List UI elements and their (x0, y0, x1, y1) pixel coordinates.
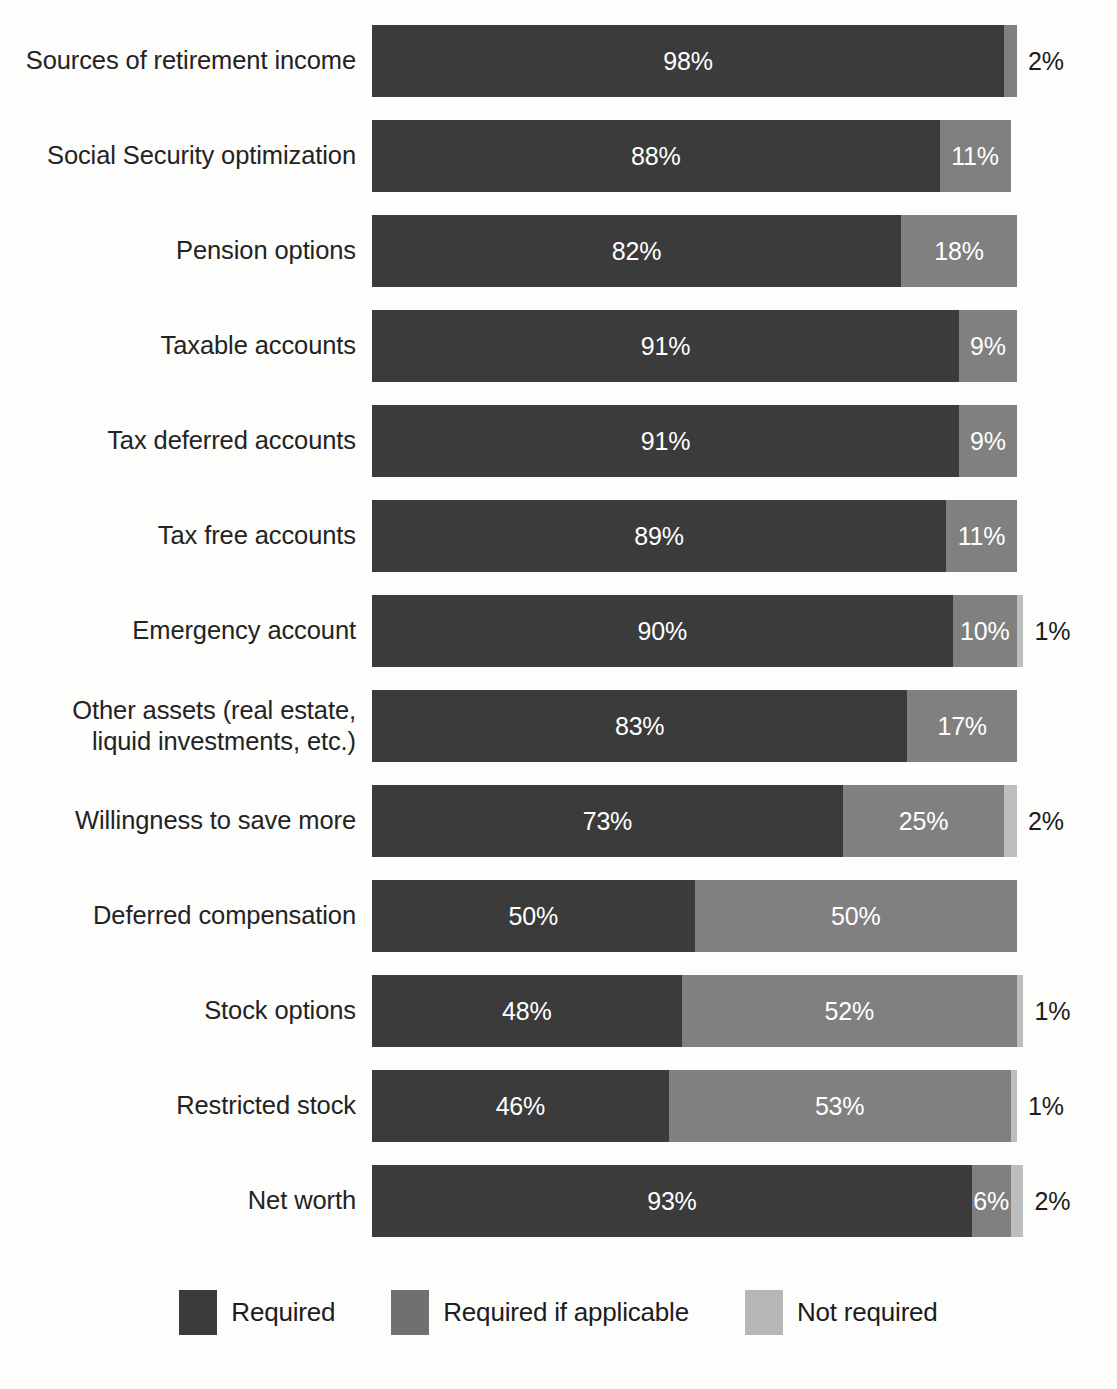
segment-value-label-outside: 2% (1028, 785, 1064, 857)
bar-row: Sources of retirement income98%2% (0, 25, 1117, 97)
segment-value-label-outside: 1% (1034, 975, 1070, 1047)
category-label: Taxable accounts (0, 330, 372, 361)
legend-item[interactable]: Required if applicable (391, 1290, 689, 1335)
category-label: Social Security optimization (0, 140, 372, 171)
segment-value-label: 91% (641, 427, 690, 456)
bar-track: 82%18% (372, 215, 1017, 287)
bar-segment-required: 46% (372, 1070, 669, 1142)
bar-segment-not-required (1011, 1070, 1017, 1142)
category-label: Restricted stock (0, 1090, 372, 1121)
bar-segment-required: 83% (372, 690, 907, 762)
segment-value-label: 48% (502, 997, 551, 1026)
segment-value-label: 9% (970, 332, 1006, 361)
bar-row: Stock options48%52%1% (0, 975, 1117, 1047)
legend-label: Required (231, 1297, 335, 1328)
bar-segment-required: 89% (372, 500, 946, 572)
bar-track: 90%10% (372, 595, 1023, 667)
bar-segment-required: 73% (372, 785, 843, 857)
bar-track: 91%9% (372, 310, 1017, 382)
segment-value-label-outside: 1% (1034, 595, 1070, 667)
bar-track: 98% (372, 25, 1017, 97)
bar-segment-required-if: 53% (669, 1070, 1011, 1142)
category-label: Net worth (0, 1185, 372, 1216)
stacked-bar-chart: Sources of retirement income98%2%Social … (0, 0, 1117, 1389)
category-label: Emergency account (0, 615, 372, 646)
segment-value-label: 88% (631, 142, 680, 171)
segment-value-label: 10% (960, 617, 1009, 646)
bar-segment-not-required (1011, 1165, 1024, 1237)
bar-row: Taxable accounts91%9% (0, 310, 1117, 382)
bar-segment-required: 91% (372, 310, 959, 382)
legend-label: Not required (797, 1297, 938, 1328)
legend-label: Required if applicable (443, 1297, 689, 1328)
segment-value-label: 11% (951, 142, 999, 171)
legend-item[interactable]: Not required (745, 1290, 938, 1335)
category-label: Stock options (0, 995, 372, 1026)
bar-row: Other assets (real estate, liquid invest… (0, 690, 1117, 762)
bar-segment-required: 88% (372, 120, 940, 192)
bar-segment-required: 90% (372, 595, 953, 667)
segment-value-label: 25% (899, 807, 948, 836)
bar-segment-required-if: 9% (959, 310, 1017, 382)
category-label: Willingness to save more (0, 805, 372, 836)
bar-track: 73%25% (372, 785, 1017, 857)
segment-value-label: 9% (970, 427, 1006, 456)
segment-value-label-outside: 2% (1034, 1165, 1070, 1237)
bar-segment-required: 98% (372, 25, 1004, 97)
bar-segment-required-if: 18% (901, 215, 1017, 287)
bar-row: Restricted stock46%53%1% (0, 1070, 1117, 1142)
segment-value-label: 46% (496, 1092, 545, 1121)
bar-track: 91%9% (372, 405, 1017, 477)
segment-value-label: 91% (641, 332, 690, 361)
bar-track: 50%50% (372, 880, 1017, 952)
legend-swatch-required (179, 1290, 217, 1335)
bar-segment-required-if: 10% (953, 595, 1018, 667)
segment-value-label-outside: 1% (1028, 1070, 1064, 1142)
bar-track: 48%52% (372, 975, 1023, 1047)
segment-value-label: 90% (638, 617, 687, 646)
bar-track: 46%53% (372, 1070, 1017, 1142)
bar-segment-required: 93% (372, 1165, 972, 1237)
bar-segment-required: 91% (372, 405, 959, 477)
bar-row: Deferred compensation50%50% (0, 880, 1117, 952)
bar-segment-required-if: 6% (972, 1165, 1011, 1237)
category-label: Pension options (0, 235, 372, 266)
segment-value-label: 53% (815, 1092, 864, 1121)
segment-value-label: 73% (583, 807, 632, 836)
bar-segment-required-if: 52% (682, 975, 1017, 1047)
bar-segment-required-if: 25% (843, 785, 1004, 857)
chart-legend: RequiredRequired if applicableNot requir… (0, 1290, 1117, 1335)
segment-value-label: 50% (509, 902, 558, 931)
legend-item[interactable]: Required (179, 1290, 335, 1335)
bar-segment-required-if: 11% (946, 500, 1017, 572)
bar-track: 88%11% (372, 120, 1011, 192)
bar-segment-required-if: 11% (940, 120, 1011, 192)
bar-segment-required: 82% (372, 215, 901, 287)
category-label: Other assets (real estate, liquid invest… (0, 695, 372, 757)
legend-swatch-required-if (391, 1290, 429, 1335)
segment-value-label: 93% (647, 1187, 696, 1216)
bar-row: Pension options82%18% (0, 215, 1117, 287)
category-label: Tax deferred accounts (0, 425, 372, 456)
legend-swatch-not-required (745, 1290, 783, 1335)
segment-value-label: 82% (612, 237, 661, 266)
segment-value-label: 17% (937, 712, 986, 741)
bar-segment-required-if: 9% (959, 405, 1017, 477)
bar-segment-required: 50% (372, 880, 695, 952)
segment-value-label: 52% (825, 997, 874, 1026)
bar-segment-required-if: 50% (695, 880, 1018, 952)
segment-value-label-outside: 2% (1028, 25, 1064, 97)
category-label: Deferred compensation (0, 900, 372, 931)
bar-track: 93%6% (372, 1165, 1023, 1237)
bar-row: Willingness to save more73%25%2% (0, 785, 1117, 857)
bar-row: Tax deferred accounts91%9% (0, 405, 1117, 477)
bar-segment-required-if: 17% (907, 690, 1017, 762)
category-label: Tax free accounts (0, 520, 372, 551)
segment-value-label: 6% (973, 1187, 1009, 1216)
segment-value-label: 50% (831, 902, 880, 931)
segment-value-label: 18% (934, 237, 983, 266)
bar-segment-required-if (1004, 25, 1017, 97)
bar-track: 89%11% (372, 500, 1017, 572)
segment-value-label: 98% (663, 47, 712, 76)
bar-row: Social Security optimization88%11% (0, 120, 1117, 192)
